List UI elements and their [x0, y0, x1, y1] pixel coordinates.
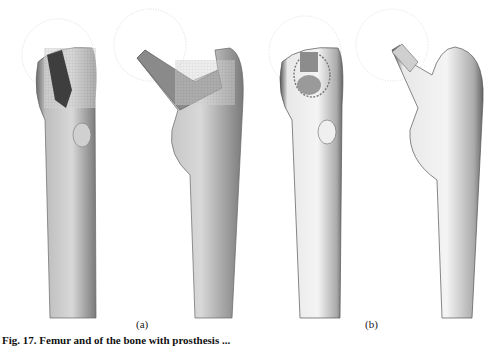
- panel-label-a: (a): [136, 318, 148, 330]
- panel-b-side-view: [356, 9, 483, 318]
- figure-illustration: [0, 0, 494, 325]
- figure: [0, 0, 494, 325]
- panel-a-front-view: [22, 19, 96, 318]
- panel-a-side-view: [114, 9, 243, 318]
- panel-label-b: (b): [365, 318, 378, 330]
- panel-b-front-view: [269, 16, 343, 318]
- figure-caption: Fig. 17. Femur and of the bone with pros…: [2, 334, 230, 346]
